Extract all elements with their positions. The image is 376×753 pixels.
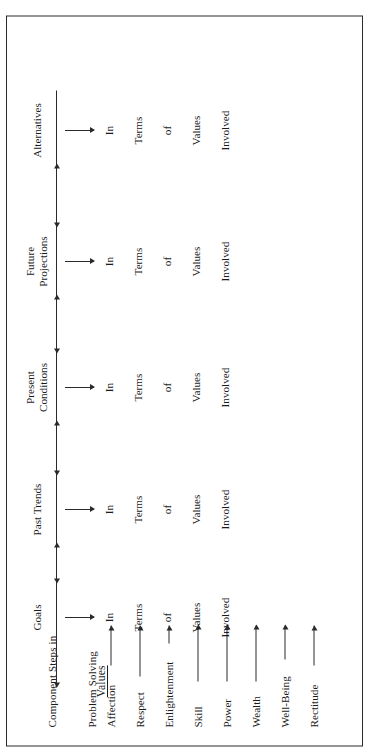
cell-word-future-projections-4: Involved bbox=[219, 241, 231, 281]
cell-entry-arrow-goals bbox=[65, 617, 94, 618]
cell-word-past-trends-0: In bbox=[103, 504, 115, 513]
cell-word-future-projections-2: of bbox=[161, 256, 173, 265]
cell-entry-arrow-future-projections bbox=[65, 261, 94, 262]
cell-word-present-conditions-1: Terms bbox=[132, 373, 144, 401]
cell-word-alternatives-3: Values bbox=[190, 115, 202, 145]
cell-word-past-trends-4: Involved bbox=[219, 489, 231, 529]
cell-entry-arrow-past-trends bbox=[65, 509, 94, 510]
figure-content-plane: Component Steps in Problem Solving Value… bbox=[7, 16, 362, 745]
cell-word-future-projections-1: Terms bbox=[132, 247, 144, 275]
cell-word-future-projections-0: In bbox=[103, 256, 115, 265]
cell-word-past-trends-3: Values bbox=[190, 494, 202, 524]
cell-word-goals-0: In bbox=[103, 612, 115, 621]
cells-layer: InTermsofValuesInvolvedInTermsofValuesIn… bbox=[7, 16, 362, 745]
cell-word-past-trends-1: Terms bbox=[132, 495, 144, 523]
cell-word-goals-3: Values bbox=[190, 602, 202, 632]
figure-rotation-frame: Component Steps in Problem Solving Value… bbox=[0, 0, 376, 753]
cell-word-alternatives-0: In bbox=[103, 125, 115, 134]
cell-word-present-conditions-2: of bbox=[161, 382, 173, 391]
cell-word-alternatives-1: Terms bbox=[132, 116, 144, 144]
cell-word-future-projections-3: Values bbox=[190, 246, 202, 276]
cell-word-goals-1: Terms bbox=[132, 603, 144, 631]
cell-entry-arrow-present-conditions bbox=[65, 387, 94, 388]
cell-word-present-conditions-0: In bbox=[103, 382, 115, 391]
figure-rotation-inner: Component Steps in Problem Solving Value… bbox=[0, 0, 376, 753]
cell-word-alternatives-2: of bbox=[161, 125, 173, 134]
figure-border-box: Component Steps in Problem Solving Value… bbox=[6, 15, 363, 746]
cell-word-goals-4: Involved bbox=[219, 597, 231, 637]
cell-entry-arrow-alternatives bbox=[65, 130, 94, 131]
cell-word-alternatives-4: Involved bbox=[219, 110, 231, 150]
cell-word-present-conditions-4: Involved bbox=[219, 367, 231, 407]
cell-word-present-conditions-3: Values bbox=[190, 372, 202, 402]
cell-word-past-trends-2: of bbox=[161, 504, 173, 513]
cell-word-goals-2: of bbox=[161, 612, 173, 621]
